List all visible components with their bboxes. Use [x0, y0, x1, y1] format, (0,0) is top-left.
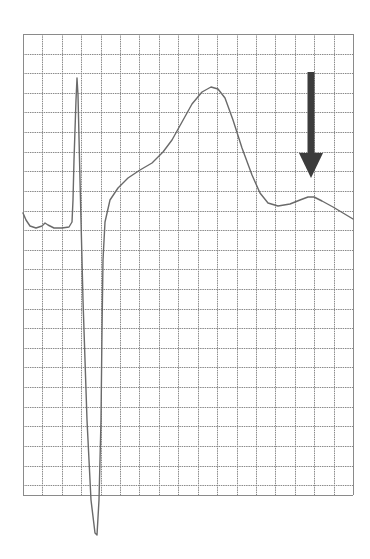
- arrow-shaft: [308, 72, 315, 155]
- grid-paper: [23, 34, 354, 496]
- ecg-strip: [0, 0, 370, 559]
- ecg-figure: [0, 0, 370, 559]
- arrow-head: [299, 153, 323, 178]
- down-arrow-icon: [299, 72, 323, 178]
